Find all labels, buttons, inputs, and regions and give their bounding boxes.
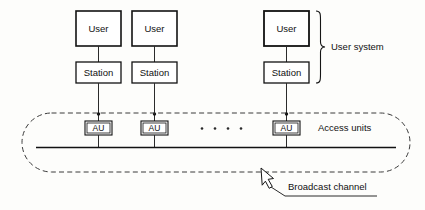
ellipsis-dot-3 xyxy=(227,127,230,130)
ellipsis-dot-2 xyxy=(214,127,217,130)
access-units-annotation: Access units xyxy=(318,122,372,133)
user-system-brace-icon xyxy=(316,11,325,83)
callout-arrow-icon xyxy=(261,168,274,188)
user-system-label: User system xyxy=(331,41,384,52)
broadcast-channel-annotation: Broadcast channel xyxy=(261,168,377,196)
ellipsis-dot-1 xyxy=(201,127,204,130)
ellipsis-group xyxy=(201,127,243,130)
user-system-column-2: User Station AU xyxy=(132,11,177,148)
au-box-label-2: AU xyxy=(149,123,161,133)
network-diagram: User Station AU User Station AU xyxy=(0,0,425,210)
diagram-canvas: User Station AU User Station AU xyxy=(0,0,425,210)
station-box-label-3: Station xyxy=(272,67,302,78)
au-box-label-1: AU xyxy=(93,123,105,133)
user-system-bracket: User system xyxy=(316,11,384,83)
ellipsis-dot-4 xyxy=(240,127,243,130)
user-system-column-1: User Station AU xyxy=(76,11,121,148)
broadcast-channel-label: Broadcast channel xyxy=(288,181,367,192)
callout-leader-line xyxy=(271,187,285,196)
access-units-label: Access units xyxy=(318,122,372,133)
user-box-label-1: User xyxy=(88,23,108,34)
station-box-label-1: Station xyxy=(84,67,114,78)
user-box-label-2: User xyxy=(144,23,164,34)
user-system-column-3: User Station AU xyxy=(264,11,309,148)
user-box-label-3: User xyxy=(276,23,296,34)
station-box-label-2: Station xyxy=(140,67,170,78)
au-box-label-3: AU xyxy=(281,123,293,133)
